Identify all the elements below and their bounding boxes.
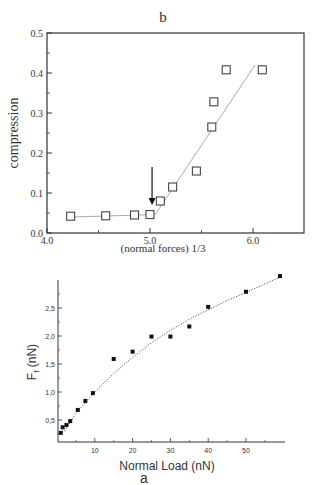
data-point [150,335,154,339]
data-point [208,123,216,131]
data-point [146,211,154,219]
data-point [258,66,266,74]
data-point [206,305,210,309]
data-point [244,290,248,294]
y-tick-label: 2,5 [45,305,55,312]
fit-line [71,215,155,217]
data-point [210,98,218,106]
data-point [169,183,177,191]
x-tick-label: 40 [204,447,212,454]
chart-a: 0,51,01,52,02,5 1020304050 Ff (nN) Norma… [25,274,285,485]
chart-a-fit-curve [65,277,280,431]
chart-b-y-label: compression [6,98,21,169]
fit-line [155,65,255,215]
chart-b-x-label: (normal forces) 1/3 [121,242,206,255]
y-tick-label: 0.2 [31,148,44,159]
chart-b-fit-lines [71,65,255,217]
y-tick-label: 1,5 [45,361,55,368]
x-tick-label: 4.0 [41,235,54,246]
y-tick-label: 0,5 [45,417,55,424]
data-point [68,419,72,423]
data-point [131,350,135,354]
data-point [102,212,110,220]
data-point [278,274,282,278]
x-tick-label: 10 [91,447,99,454]
x-tick-label: 30 [167,447,175,454]
data-point [168,335,172,339]
chart-a-x-label: Normal Load (nN) [119,459,214,473]
chart-a-caption: a [140,470,148,485]
chart-b-arrow-annotation [149,167,156,205]
y-tick-label: 0.5 [31,28,44,39]
fit-curve [65,277,280,431]
arrow-head-icon [149,198,156,205]
data-point [59,431,63,435]
chart-b-frame [47,33,304,233]
figure: b 0.00.10.20.30.40.5 4.05.06.0 compressi… [0,0,314,485]
data-point [91,391,95,395]
data-point [192,167,200,175]
chart-b: b 0.00.10.20.30.40.5 4.05.06.0 compressi… [6,9,304,255]
chart-b-title: b [159,9,167,25]
x-tick-label: 50 [242,447,250,454]
data-point [187,324,191,328]
y-tick-label: 0.3 [31,108,44,119]
y-tick-label: 1,0 [45,389,55,396]
chart-a-x-axis: 1020304050 [76,438,265,454]
data-point [112,357,116,361]
data-point [67,212,75,220]
chart-b-y-axis: 0.00.10.20.30.40.5 [31,28,53,239]
x-tick-label: 20 [129,447,137,454]
data-point [222,66,230,74]
data-point [64,423,68,427]
chart-a-y-axis: 0,51,01,52,02,5 [45,294,62,434]
chart-a-y-label: Ff (nN) [25,344,41,380]
data-point [131,211,139,219]
data-point [156,197,164,205]
chart-a-data-points [59,274,282,435]
x-tick-label: 6.0 [247,235,260,246]
data-point [83,399,87,403]
data-point [61,425,65,429]
y-tick-label: 0.4 [31,68,44,79]
data-point [76,408,80,412]
y-tick-label: 0.1 [31,188,44,199]
y-tick-label: 2,0 [45,333,55,340]
